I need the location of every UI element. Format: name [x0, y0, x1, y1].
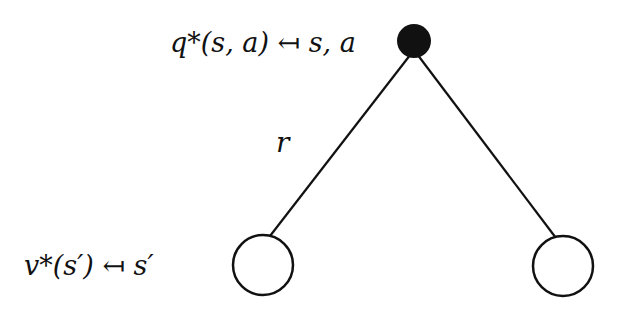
child-label-left: v*(s′) ↤ s′: [24, 250, 154, 281]
root-label: q*(s, a) ↤ s, a: [170, 27, 356, 58]
edge-right: [414, 50, 556, 238]
action-node-root: [397, 24, 431, 58]
edge-left: [270, 50, 414, 236]
edge-reward-label: r: [276, 126, 291, 159]
state-node-right: [533, 236, 593, 296]
backup-diagram: q*(s, a) ↤ s, a r v*(s′) ↤ s′: [0, 0, 621, 309]
state-node-left: [233, 235, 293, 295]
